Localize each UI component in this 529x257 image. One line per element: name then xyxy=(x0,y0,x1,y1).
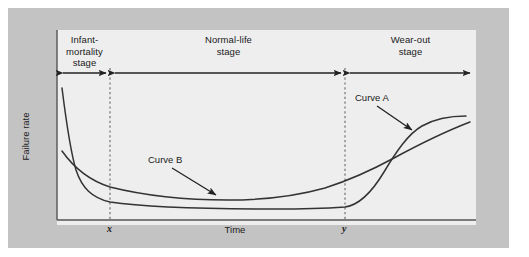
curve-b-label: Curve B xyxy=(148,154,182,165)
x-axis-label: Time xyxy=(190,224,280,235)
curve-a-label: Curve A xyxy=(355,92,389,103)
y-axis-label: Failure rate xyxy=(20,102,31,172)
stage-label-normal-life: Normal-life stage xyxy=(112,34,345,57)
curve-a-path xyxy=(62,88,466,209)
stage-label-infant-mortality: Infant- mortality stage xyxy=(57,34,112,69)
curve-b-pointer-arrow xyxy=(172,168,216,195)
figure-container: Infant- mortality stage Normal-life stag… xyxy=(0,0,529,257)
stage-label-wear-out: Wear-out stage xyxy=(345,34,476,57)
x-axis-tick-x: x xyxy=(107,223,112,234)
curve-a-pointer-arrow xyxy=(377,106,412,130)
curve-b-path xyxy=(62,122,470,200)
x-axis-tick-y: y xyxy=(342,223,346,234)
